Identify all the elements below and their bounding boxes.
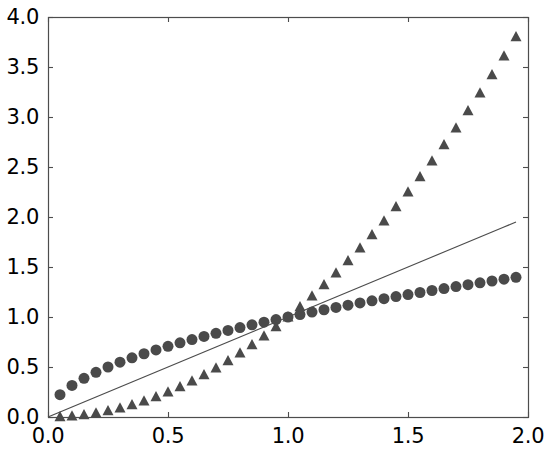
x-tick-label: 1.5 [392, 424, 425, 448]
marker-circle [343, 300, 354, 311]
y-tick-label: 3.5 [0, 55, 39, 79]
marker-circle [127, 352, 138, 363]
marker-circle [403, 289, 414, 300]
y-tick-label: 3.0 [0, 105, 39, 129]
marker-circle [79, 373, 90, 384]
marker-circle [199, 331, 210, 342]
marker-circle [331, 302, 342, 313]
marker-circle [187, 334, 198, 345]
marker-circle [511, 272, 522, 283]
marker-circle [415, 287, 426, 298]
y-tick-label: 1.0 [0, 305, 39, 329]
marker-circle [427, 285, 438, 296]
x-tick-label: 0.5 [152, 424, 185, 448]
marker-circle [451, 281, 462, 292]
y-tick-label: 0.5 [0, 355, 39, 379]
marker-circle [163, 341, 174, 352]
marker-circle [439, 283, 450, 294]
marker-circle [475, 277, 486, 288]
x-tick-label: 2.0 [512, 424, 545, 448]
marker-circle [115, 357, 126, 368]
marker-circle [391, 291, 402, 302]
marker-circle [103, 362, 114, 373]
y-tick-label: 2.5 [0, 155, 39, 179]
marker-circle [463, 279, 474, 290]
marker-circle [319, 304, 330, 315]
marker-circle [175, 337, 186, 348]
marker-circle [247, 319, 258, 330]
marker-circle [223, 325, 234, 336]
marker-circle [367, 295, 378, 306]
marker-circle [487, 275, 498, 286]
marker-circle [235, 322, 246, 333]
marker-circle [67, 380, 78, 391]
marker-circle [55, 389, 66, 400]
marker-circle [91, 367, 102, 378]
x-tick-label: 0.0 [32, 424, 65, 448]
y-tick-label: 1.5 [0, 255, 39, 279]
marker-circle [355, 297, 366, 308]
y-tick-label: 2.0 [0, 205, 39, 229]
y-tick-label: 4.0 [0, 5, 39, 29]
x-tick-label: 1.0 [272, 424, 305, 448]
marker-circle [379, 293, 390, 304]
marker-circle [211, 328, 222, 339]
marker-circle [499, 274, 510, 285]
chart-figure: 0.00.51.01.52.02.53.03.54.0 0.00.51.01.5… [0, 0, 549, 452]
marker-circle [151, 344, 162, 355]
plot-canvas [0, 0, 549, 452]
marker-circle [139, 348, 150, 359]
